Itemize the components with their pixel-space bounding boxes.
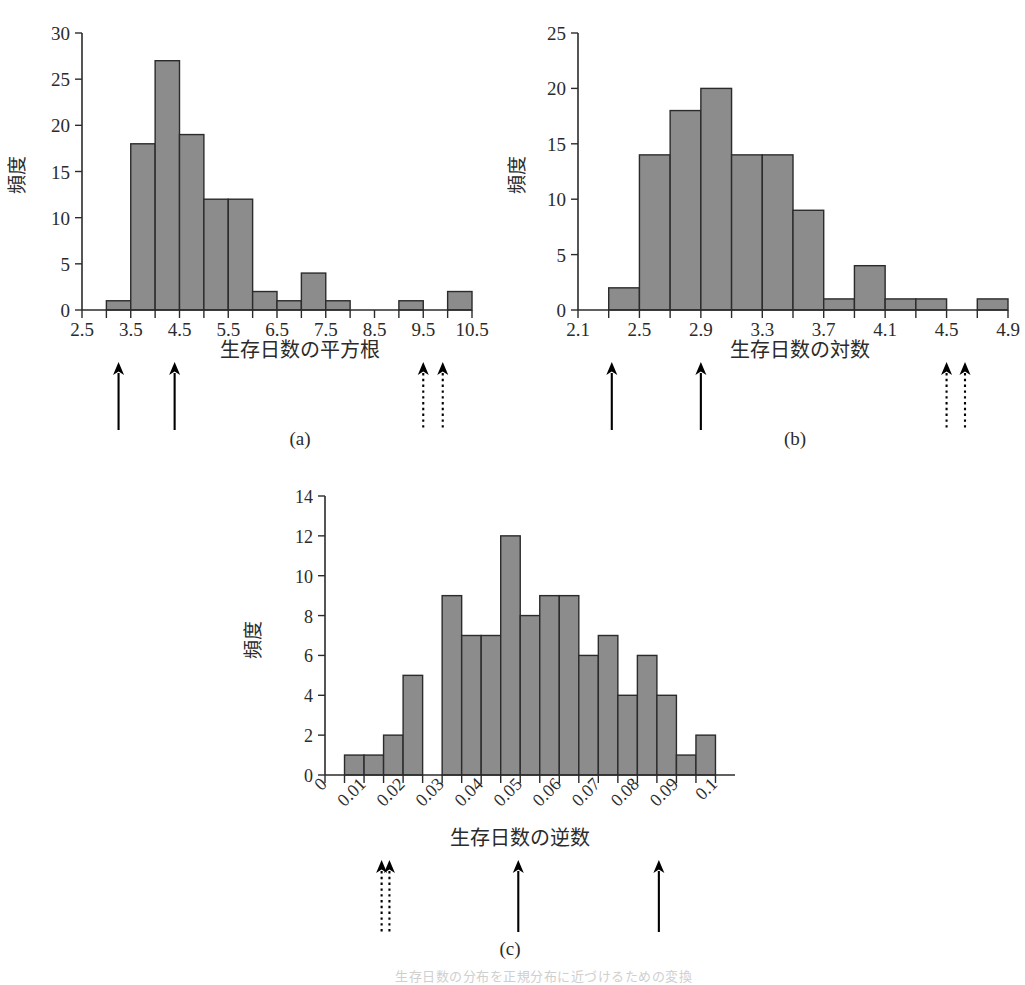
histogram-bar: [854, 266, 885, 310]
x-tick-label: 2.5: [70, 319, 94, 340]
histogram-bar: [448, 292, 472, 310]
histogram-bar: [696, 735, 716, 775]
histogram-bar: [204, 199, 228, 310]
bars-group: [106, 61, 472, 310]
x-tick-label: 7.5: [314, 319, 338, 340]
x-tick-label: 4.5: [935, 319, 959, 340]
y-tick-label: 25: [51, 69, 70, 90]
histogram-bar: [977, 299, 1008, 310]
y-tick-label: 5: [61, 254, 71, 275]
x-tick-label: 4.9: [996, 319, 1020, 340]
x-tick-label: 2.5: [628, 319, 652, 340]
histogram-bar: [609, 288, 640, 310]
y-axis-label: 頻度: [243, 621, 264, 659]
histogram-bar: [155, 61, 179, 310]
histogram-bar: [670, 111, 701, 310]
histogram-bar: [732, 155, 763, 310]
histogram-bar: [916, 299, 947, 310]
y-tick-label: 10: [547, 189, 566, 210]
histogram-bar: [399, 301, 423, 310]
histogram-bar: [824, 299, 855, 310]
histogram-bar: [228, 199, 252, 310]
y-tick-label: 25: [547, 23, 566, 44]
x-axis-label: 生存日数の対数: [730, 339, 870, 361]
y-axis-label: 頻度: [507, 156, 528, 194]
y-tick-label: 0: [557, 300, 567, 321]
histogram-bar: [253, 292, 277, 310]
histogram-bar: [131, 144, 155, 310]
histogram-bar: [345, 755, 365, 775]
histogram-bar: [637, 655, 657, 775]
y-tick-label: 0: [61, 300, 71, 321]
x-tick-label: 6.5: [265, 319, 289, 340]
histogram-bar: [657, 695, 677, 775]
figure-bottom-note: 生存日数の分布を正規分布に近づけるための変換: [395, 966, 692, 985]
histogram-bar: [639, 155, 670, 310]
histogram-bar: [326, 301, 350, 310]
panel-a: 0510152025302.53.54.55.56.57.58.59.510.5…: [0, 0, 500, 460]
histogram-bar: [106, 301, 130, 310]
x-tick-label: 4.1: [873, 319, 897, 340]
bars-group: [609, 88, 1008, 310]
histogram-bar: [301, 273, 325, 310]
histogram-bar: [559, 596, 579, 775]
histogram-bar: [762, 155, 793, 310]
panel-caption: (a): [289, 428, 310, 450]
histogram-bar: [384, 735, 404, 775]
x-tick-label: 10.5: [455, 319, 488, 340]
chart-c-canvas: 0246810121400.010.020.030.040.050.060.07…: [190, 470, 840, 970]
histogram-bar: [462, 636, 482, 776]
histogram-bar: [520, 616, 540, 775]
x-tick-label: 9.5: [411, 319, 435, 340]
histogram-bar: [885, 299, 916, 310]
y-tick-label: 5: [557, 245, 567, 266]
histogram-bar: [540, 596, 560, 775]
x-axis-label: 生存日数の平方根: [220, 339, 380, 361]
x-tick-label: 3.7: [812, 319, 836, 340]
histogram-bar: [676, 755, 696, 775]
y-tick-label: 20: [547, 78, 566, 99]
y-tick-label: 4: [304, 686, 313, 706]
x-tick-label: 4.5: [168, 319, 192, 340]
histogram-bar: [701, 88, 732, 310]
histogram-bar: [403, 675, 423, 775]
y-tick-label: 30: [51, 23, 70, 44]
bars-group: [345, 536, 716, 775]
marker-arrows-group: [376, 860, 664, 932]
x-tick-label: 3.3: [750, 319, 774, 340]
histogram-bar: [501, 536, 521, 775]
chart-a-canvas: 0510152025302.53.54.55.56.57.58.59.510.5…: [0, 0, 500, 460]
panel-c: 0246810121400.010.020.030.040.050.060.07…: [190, 470, 840, 970]
y-tick-label: 14: [295, 487, 313, 507]
histogram-bar: [481, 636, 501, 776]
y-axis-label: 頻度: [7, 156, 28, 194]
histogram-bar: [618, 695, 638, 775]
marker-arrows-group: [606, 362, 970, 430]
histogram-bar: [364, 755, 384, 775]
y-tick-label: 6: [304, 646, 313, 666]
x-tick-label: 2.1: [566, 319, 590, 340]
panel-caption: (b): [784, 428, 806, 450]
y-tick-label: 10: [295, 567, 313, 587]
histogram-bar: [598, 636, 618, 776]
histogram-bar: [180, 135, 204, 310]
y-tick-label: 8: [304, 607, 313, 627]
y-tick-label: 2: [304, 726, 313, 746]
y-tick-label: 20: [51, 115, 70, 136]
histogram-bar: [442, 596, 462, 775]
x-tick-label: 3.5: [119, 319, 143, 340]
y-tick-label: 15: [547, 134, 566, 155]
histogram-bar: [793, 210, 824, 310]
x-tick-label: 2.9: [689, 319, 713, 340]
y-tick-label: 12: [295, 527, 313, 547]
y-tick-label: 15: [51, 162, 70, 183]
y-tick-label: 10: [51, 208, 70, 229]
histogram-bar: [579, 655, 599, 775]
x-tick-label: 0: [310, 774, 331, 795]
panel-b: 05101520252.12.52.93.33.74.14.54.9生存日数の対…: [500, 0, 1025, 460]
panel-caption: (c): [499, 938, 520, 960]
x-tick-label: 5.5: [216, 319, 240, 340]
x-axis-label: 生存日数の逆数: [450, 827, 590, 849]
chart-b-canvas: 05101520252.12.52.93.33.74.14.54.9生存日数の対…: [500, 0, 1025, 460]
